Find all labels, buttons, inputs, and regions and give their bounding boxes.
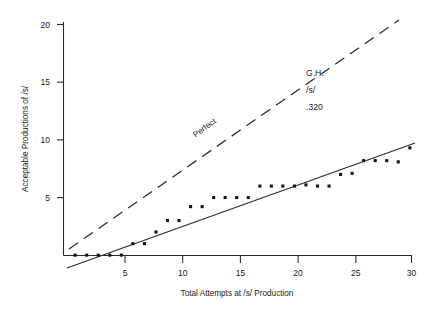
- perfect-reference-line: [69, 20, 399, 249]
- perfect-line-label: Perfect: [191, 116, 218, 139]
- data-point: [97, 254, 100, 257]
- data-point: [201, 205, 204, 208]
- data-point: [235, 196, 238, 199]
- data-point: [247, 196, 250, 199]
- data-point: [397, 160, 400, 163]
- data-point: [74, 254, 77, 257]
- y-tick-label-5: 5: [45, 193, 50, 203]
- x-tick-label-5: 5: [123, 268, 128, 278]
- data-point: [120, 254, 123, 257]
- data-point: [316, 185, 319, 188]
- x-axis-title: Total Attempts at /s/ Production: [181, 289, 294, 298]
- data-point: [154, 231, 157, 234]
- data-point: [339, 173, 342, 176]
- data-point: [374, 159, 377, 162]
- data-point: [224, 196, 227, 199]
- data-point: [385, 159, 388, 162]
- y-axis-title: Acceptable Productions of /s/: [21, 85, 30, 192]
- data-point: [189, 205, 192, 208]
- x-tick-label-20: 20: [293, 268, 303, 278]
- data-point: [304, 183, 307, 186]
- x-axis-ticks: [125, 256, 412, 264]
- data-point: [85, 254, 88, 257]
- y-tick-label-10: 10: [41, 135, 51, 145]
- x-tick-label-15: 15: [236, 268, 246, 278]
- annotation-subject-initials: G.H.: [306, 68, 324, 78]
- annotation-slope-value: .320: [306, 102, 323, 112]
- data-point: [293, 185, 296, 188]
- y-tick-label-20: 20: [41, 20, 51, 30]
- data-point: [328, 185, 331, 188]
- x-tick-label-25: 25: [351, 268, 361, 278]
- data-point: [362, 159, 365, 162]
- data-point: [166, 219, 169, 222]
- x-tick-label-30: 30: [407, 268, 417, 278]
- data-point: [143, 242, 146, 245]
- scatter-plot-figure: 20 15 10 5 5 10 15 20 25 30 Total Attemp…: [0, 0, 436, 319]
- data-point: [212, 196, 215, 199]
- x-tick-label-10: 10: [178, 268, 188, 278]
- data-point: [108, 254, 111, 257]
- annotation-phoneme: /s/: [306, 85, 316, 95]
- data-point: [131, 242, 134, 245]
- data-point: [270, 185, 273, 188]
- data-point: [258, 185, 261, 188]
- data-point: [281, 185, 284, 188]
- y-axis-ticks: [57, 25, 64, 198]
- plot-canvas: 20 15 10 5 5 10 15 20 25 30 Total Attemp…: [0, 0, 436, 319]
- data-point: [178, 219, 181, 222]
- y-tick-label-15: 15: [41, 77, 51, 87]
- data-point: [351, 172, 354, 175]
- data-point: [408, 146, 411, 149]
